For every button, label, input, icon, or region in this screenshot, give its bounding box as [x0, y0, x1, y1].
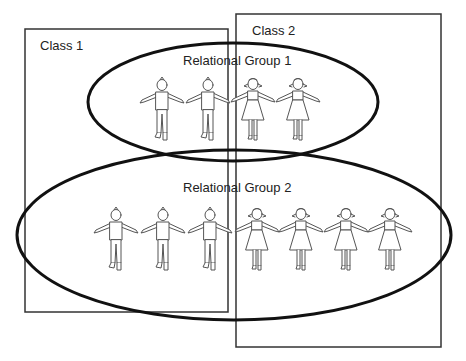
- class-1-label: Class 1: [40, 39, 83, 52]
- girl-figure-icon: [279, 209, 323, 271]
- girl-figure-icon: [276, 79, 320, 141]
- relational-group-1-label: Relational Group 1: [183, 54, 291, 67]
- girl-figure-icon: [368, 209, 412, 271]
- figures-layer: [94, 77, 412, 270]
- boy-figure-icon: [186, 77, 230, 140]
- boy-figure-icon: [94, 207, 138, 270]
- class-2-label: Class 2: [252, 24, 295, 37]
- class-1-box: [25, 29, 228, 312]
- boy-figure-icon: [140, 77, 184, 140]
- diagram-canvas: Class 1 Class 2 Relational Group 1 Relat…: [0, 0, 466, 361]
- relational-group-2-label: Relational Group 2: [183, 181, 291, 194]
- boy-figure-icon: [141, 207, 185, 270]
- girl-figure-icon: [231, 79, 275, 141]
- girl-figure-icon: [235, 209, 279, 271]
- girl-figure-icon: [324, 209, 368, 271]
- boy-figure-icon: [188, 207, 232, 270]
